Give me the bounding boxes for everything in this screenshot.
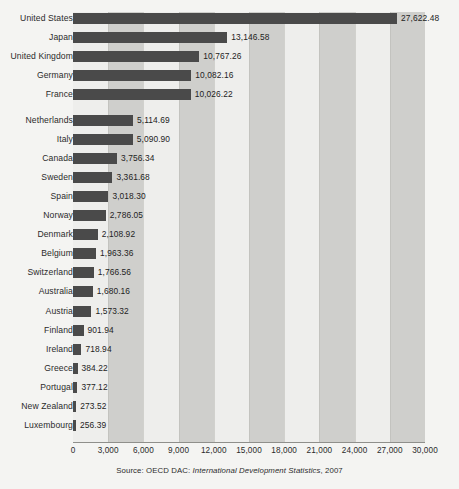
bar-value-label: 3,756.34 — [121, 152, 154, 165]
bar — [73, 306, 91, 317]
bar — [73, 382, 77, 393]
bar-row: Portugal377.12 — [0, 381, 459, 394]
bar-value-label: 377.12 — [81, 381, 107, 394]
bar-row: Luxembourg256.39 — [0, 419, 459, 432]
bar-value-label: 1,766.56 — [98, 266, 131, 279]
category-label: Sweden — [0, 171, 73, 184]
category-label: Austria — [0, 305, 73, 318]
bar-row: Australia1,680.16 — [0, 285, 459, 298]
bar — [73, 89, 191, 100]
category-label: Spain — [0, 190, 73, 203]
bar-value-label: 256.39 — [80, 419, 106, 432]
bar-row: Norway2,786.05 — [0, 209, 459, 222]
bar-row: United Kingdom10,767.26 — [0, 50, 459, 63]
bar-row: Spain3,018.30 — [0, 190, 459, 203]
bar-value-label: 10,082.16 — [195, 69, 233, 82]
bar — [73, 229, 98, 240]
category-label: Luxembourg — [0, 419, 73, 432]
bar — [73, 191, 108, 202]
category-label: Germany — [0, 69, 73, 82]
x-tick-label: 9,000 — [168, 445, 189, 456]
bar-value-label: 13,146.58 — [231, 31, 269, 44]
bar-value-label: 5,114.69 — [137, 114, 170, 127]
bar-value-label: 1,680.16 — [97, 285, 130, 298]
category-label: United Kingdom — [0, 50, 73, 63]
chart-plot-area: United States27,622.48Japan13,146.58Unit… — [0, 0, 459, 489]
category-label: Norway — [0, 209, 73, 222]
bar — [73, 172, 112, 183]
category-label: United States — [0, 12, 73, 25]
chart-page: United States27,622.48Japan13,146.58Unit… — [0, 0, 459, 489]
category-label: Finland — [0, 324, 73, 337]
category-label: Australia — [0, 285, 73, 298]
bar-value-label: 10,026.22 — [195, 88, 233, 101]
x-tick-label: 0 — [71, 445, 76, 456]
bar-value-label: 2,786.05 — [110, 209, 143, 222]
bar-row: Ireland718.94 — [0, 343, 459, 356]
category-label: Ireland — [0, 343, 73, 356]
x-tick-label: 27,000 — [377, 445, 403, 456]
bar-row: Germany10,082.16 — [0, 69, 459, 82]
x-tick-label: 30,000 — [412, 445, 438, 456]
x-tick-label: 18,000 — [271, 445, 297, 456]
bar-row: Netherlands5,114.69 — [0, 114, 459, 127]
x-axis-rule — [73, 442, 425, 443]
category-label: Japan — [0, 31, 73, 44]
x-tick-label: 21,000 — [307, 445, 333, 456]
bar-row: Denmark2,108.92 — [0, 228, 459, 241]
source-prefix: Source: OECD DAC: — [116, 466, 192, 475]
bar-value-label: 901.94 — [88, 324, 114, 337]
bar — [73, 13, 397, 24]
bar-row: Japan13,146.58 — [0, 31, 459, 44]
category-label: Greece — [0, 362, 73, 375]
category-label: Denmark — [0, 228, 73, 241]
bar-value-label: 5,090.90 — [137, 133, 170, 146]
x-tick-label: 3,000 — [98, 445, 119, 456]
bar — [73, 248, 96, 259]
category-label: Switzerland — [0, 266, 73, 279]
source-note: Source: OECD DAC: International Developm… — [0, 466, 459, 475]
bar — [73, 267, 94, 278]
bar-row: Italy5,090.90 — [0, 133, 459, 146]
bar-value-label: 273.52 — [80, 400, 106, 413]
category-label: France — [0, 88, 73, 101]
bar-value-label: 1,573.32 — [95, 305, 128, 318]
bar-value-label: 3,361.68 — [116, 171, 149, 184]
bar-row: Greece384.22 — [0, 362, 459, 375]
x-tick-label: 12,000 — [201, 445, 227, 456]
bar — [73, 32, 227, 43]
bar — [73, 363, 78, 374]
bar-row: Switzerland1,766.56 — [0, 266, 459, 279]
bar — [73, 286, 93, 297]
category-label: Belgium — [0, 247, 73, 260]
bar-row: Belgium1,963.36 — [0, 247, 459, 260]
x-tick-label: 15,000 — [236, 445, 262, 456]
bar-value-label: 1,963.36 — [100, 247, 133, 260]
bar — [73, 153, 117, 164]
bar — [73, 420, 76, 431]
bar-value-label: 718.94 — [85, 343, 111, 356]
bar — [73, 115, 133, 126]
bar-value-label: 10,767.26 — [203, 50, 241, 63]
bar — [73, 210, 106, 221]
bar-value-label: 2,108.92 — [102, 228, 135, 241]
x-axis: 03,0006,0009,00012,00015,00018,00021,000… — [0, 442, 459, 464]
bar — [73, 401, 76, 412]
bar-row: New Zealand273.52 — [0, 400, 459, 413]
bar-value-label: 384.22 — [82, 362, 108, 375]
bar-row: Canada3,756.34 — [0, 152, 459, 165]
category-label: New Zealand — [0, 400, 73, 413]
bar-row: Austria1,573.32 — [0, 305, 459, 318]
x-tick-label: 24,000 — [342, 445, 368, 456]
bar — [73, 134, 133, 145]
bar — [73, 70, 191, 81]
bar-value-label: 27,622.48 — [401, 12, 439, 25]
source-suffix: , 2007 — [321, 466, 343, 475]
x-tick-label: 6,000 — [133, 445, 154, 456]
source-title: International Development Statistics — [193, 466, 321, 475]
bar — [73, 51, 199, 62]
bar-row: Finland901.94 — [0, 324, 459, 337]
bar-row: Sweden3,361.68 — [0, 171, 459, 184]
bar-value-label: 3,018.30 — [112, 190, 145, 203]
category-label: Netherlands — [0, 114, 73, 127]
